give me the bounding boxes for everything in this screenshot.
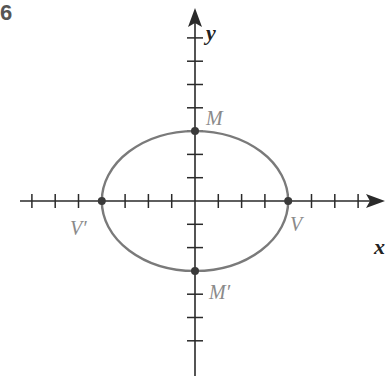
coordinate-plane [0, 0, 389, 376]
y-axis-label: y [206, 22, 216, 44]
vertex-V [284, 197, 292, 205]
label-M-prime: M′ [209, 282, 230, 302]
label-V: V [290, 214, 302, 234]
label-V-prime: V′ [70, 218, 87, 238]
label-M: M [206, 108, 223, 128]
vertex-M-prime [191, 267, 199, 275]
vertex-M [191, 127, 199, 135]
vertex-V-prime [98, 197, 106, 205]
x-axis-label: x [374, 236, 385, 258]
